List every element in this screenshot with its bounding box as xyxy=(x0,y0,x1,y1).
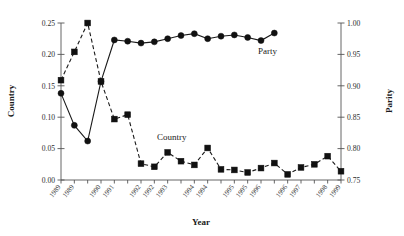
left-tick-label: 0.25 xyxy=(42,19,55,28)
x-axis-tick-labels: 1989198919901991199219921993199419941995… xyxy=(48,183,343,199)
data-point-country xyxy=(178,158,184,164)
left-tick-label: 0.10 xyxy=(42,113,55,122)
x-tick-label: 1996 xyxy=(248,183,263,199)
series-layer xyxy=(58,20,344,177)
plot-axes xyxy=(61,23,341,180)
x-tick-label: 1989 xyxy=(48,183,63,199)
x-tick-label: 1998 xyxy=(314,183,329,199)
left-axis-title: Country xyxy=(6,84,16,117)
left-tick-label: 0.00 xyxy=(42,176,55,185)
data-point-country xyxy=(298,165,304,171)
x-tick-label: 1989 xyxy=(61,183,76,199)
right-tick-label: 0.80 xyxy=(347,144,360,153)
x-tick-label: 1991 xyxy=(101,183,116,199)
data-point-party xyxy=(205,36,211,42)
data-point-party xyxy=(271,30,277,36)
data-point-party xyxy=(258,38,264,44)
data-point-party xyxy=(71,122,77,128)
series-annotation-party: Party xyxy=(258,46,277,56)
data-point-country xyxy=(58,77,64,83)
data-point-party xyxy=(151,39,157,45)
right-axis-title: Parity xyxy=(384,89,394,113)
series-line-country xyxy=(61,23,341,174)
x-tick-label: 1999 xyxy=(328,183,343,199)
data-point-country xyxy=(205,145,211,151)
left-tick-label: 0.15 xyxy=(42,82,55,91)
x-tick-label: 1994 xyxy=(194,183,209,199)
left-tick-label: 0.05 xyxy=(42,144,55,153)
data-point-country xyxy=(285,171,291,177)
data-point-party xyxy=(245,34,251,40)
right-tick-label: 0.90 xyxy=(347,82,360,91)
x-tick-label: 1997 xyxy=(288,183,303,199)
series-line-party xyxy=(61,33,274,141)
data-point-country xyxy=(125,112,131,118)
data-point-party xyxy=(178,33,184,39)
x-tick-label: 1994 xyxy=(181,183,196,199)
x-tick-label: 1992 xyxy=(128,183,143,199)
x-tick-label: 1990 xyxy=(88,183,103,199)
data-point-party xyxy=(58,90,64,96)
x-axis-ticks xyxy=(61,180,341,184)
data-point-party xyxy=(165,36,171,42)
data-point-party xyxy=(218,33,224,39)
data-point-country xyxy=(338,168,344,174)
chart-container: 0.000.050.100.150.200.25 0.750.800.850.9… xyxy=(0,0,404,236)
right-tick-label: 0.95 xyxy=(347,50,360,59)
data-point-party xyxy=(98,78,104,84)
data-point-country xyxy=(258,165,264,171)
x-tick-label: 1995 xyxy=(234,183,249,199)
right-tick-label: 0.85 xyxy=(347,113,360,122)
dual-axis-line-chart: 0.000.050.100.150.200.25 0.750.800.850.9… xyxy=(0,0,404,236)
right-tick-label: 0.75 xyxy=(347,176,360,185)
data-point-country xyxy=(231,167,237,173)
series-annotation-country: Country xyxy=(157,132,187,142)
data-point-country xyxy=(138,161,144,167)
data-point-party xyxy=(111,37,117,43)
x-tick-label: 1993 xyxy=(154,183,169,199)
data-point-party xyxy=(125,38,131,44)
x-tick-label: 1992 xyxy=(141,183,156,199)
data-point-party xyxy=(191,31,197,37)
data-point-country xyxy=(151,164,157,170)
x-axis-title: Year xyxy=(192,217,210,227)
data-point-party xyxy=(138,40,144,46)
data-point-country xyxy=(245,170,251,176)
left-tick-label: 0.20 xyxy=(42,50,55,59)
x-tick-label: 1995 xyxy=(221,183,236,199)
data-point-country xyxy=(165,149,171,155)
data-point-country xyxy=(85,20,91,26)
x-tick-label: 1996 xyxy=(274,183,289,199)
data-point-country xyxy=(191,162,197,168)
data-point-country xyxy=(311,161,317,167)
right-tick-label: 1.00 xyxy=(347,19,360,28)
data-point-country xyxy=(325,153,331,159)
data-point-party xyxy=(231,32,237,38)
data-point-party xyxy=(85,138,91,144)
data-point-country xyxy=(218,166,224,172)
data-point-country xyxy=(271,160,277,166)
data-point-country xyxy=(111,116,117,122)
data-point-country xyxy=(71,49,77,55)
